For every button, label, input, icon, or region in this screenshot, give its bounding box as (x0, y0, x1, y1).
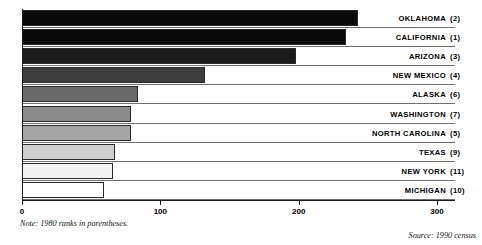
bar-north-carolina (22, 125, 131, 141)
state-name: TEXAS (352, 143, 446, 162)
bar-washington (22, 106, 131, 122)
bar-new-york (22, 163, 113, 179)
x-tick (160, 200, 161, 205)
state-name: ARIZONA (352, 47, 446, 66)
state-name: NEW YORK (352, 162, 446, 181)
state-rank: (5) (450, 124, 482, 143)
state-name: OKLAHOMA (352, 9, 446, 28)
x-tick-label: 0 (20, 207, 24, 216)
state-rank: (9) (450, 143, 482, 162)
state-name: WASHINGTON (352, 105, 446, 124)
state-name: MICHIGAN (352, 181, 446, 200)
bar-oklahoma (22, 10, 358, 26)
state-name: CALIFORNIA (352, 28, 446, 47)
bar-michigan (22, 182, 104, 198)
state-rank: (10) (450, 181, 482, 200)
category-labels: OKLAHOMA(2)CALIFORNIA(1)ARIZONA(3)NEW ME… (352, 9, 482, 200)
x-axis-line (22, 200, 455, 201)
bar-arizona (22, 48, 296, 64)
state-rank: (6) (450, 85, 482, 104)
bar-chart: 0100200300 OKLAHOMA(2)CALIFORNIA(1)ARIZO… (0, 0, 482, 245)
state-rank: (11) (450, 162, 482, 181)
bar-new-mexico (22, 67, 205, 83)
y-axis-line (22, 9, 23, 201)
x-tick (437, 200, 438, 205)
x-tick (22, 200, 23, 205)
state-rank: (7) (450, 105, 482, 124)
bar-alaska (22, 86, 138, 102)
bar-california (22, 29, 346, 45)
state-rank: (2) (450, 9, 482, 28)
state-rank: (1) (450, 28, 482, 47)
bar-texas (22, 144, 115, 160)
state-rank: (3) (450, 47, 482, 66)
state-rank: (4) (450, 66, 482, 85)
x-tick-label: 200 (292, 207, 305, 216)
chart-source: Source: 1990 census (409, 231, 476, 240)
chart-note: Note: 1980 ranks in parentheses. (20, 219, 128, 228)
state-name: NORTH CAROLINA (352, 124, 446, 143)
state-name: NEW MEXICO (352, 66, 446, 85)
state-name: ALASKA (352, 85, 446, 104)
x-tick (299, 200, 300, 205)
x-tick-label: 300 (430, 207, 443, 216)
x-tick-label: 100 (154, 207, 167, 216)
